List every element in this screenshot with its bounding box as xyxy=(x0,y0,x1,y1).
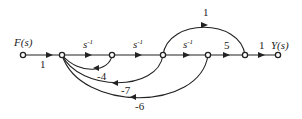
signal-flow-graph: F(s) Y(s) 1 s-1 s-1 s-1 5 1 1 -4 -7 -6 xyxy=(0,0,302,119)
input-label: F(s) xyxy=(13,36,33,49)
arrow-n4-n5 xyxy=(183,52,190,58)
feedforward-arc-n4-n6 xyxy=(163,27,245,55)
gain-feedforward: 1 xyxy=(203,6,209,18)
gain-n4-n5: s-1 xyxy=(183,38,193,50)
node-4 xyxy=(160,52,165,57)
node-output xyxy=(275,52,280,57)
node-5 xyxy=(205,52,210,57)
gain-feedback-4: -4 xyxy=(97,70,107,82)
node-input xyxy=(20,52,25,57)
feedback-arc-n3-n2 xyxy=(62,55,112,69)
node-2 xyxy=(59,52,64,57)
gain-feedback-7: -7 xyxy=(121,84,131,96)
arrow-n2-n3 xyxy=(85,52,92,58)
gain-n1-n2: 1 xyxy=(40,58,46,70)
arrow-feedback-7 xyxy=(112,80,118,86)
gain-n5-n6: 5 xyxy=(224,39,230,51)
gain-n2-n3: s-1 xyxy=(83,38,93,50)
node-3 xyxy=(109,52,114,57)
arrow-n5-n6 xyxy=(223,52,230,58)
arrow-n6-n7 xyxy=(258,52,265,58)
arrow-n3-n4 xyxy=(135,52,142,58)
gain-n3-n4: s-1 xyxy=(133,38,143,50)
arrow-n1-n2 xyxy=(46,52,53,58)
output-label: Y(s) xyxy=(271,39,289,52)
node-6 xyxy=(242,52,247,57)
feedback-arc-n5-n2 xyxy=(62,55,208,98)
feedback-arc-n4-n2 xyxy=(62,55,163,83)
gain-feedback-6: -6 xyxy=(135,100,145,112)
gain-n6-n7: 1 xyxy=(259,39,265,51)
